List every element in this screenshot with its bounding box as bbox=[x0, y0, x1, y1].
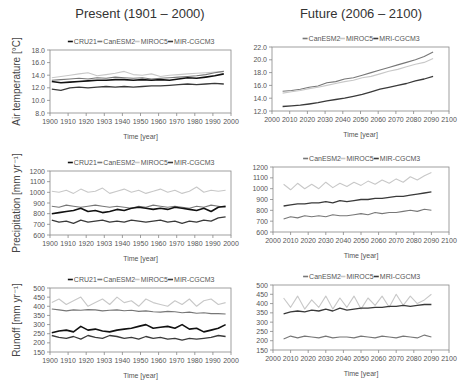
legend: CRU21CanESM2MIROC5MIR-CGCM3 bbox=[68, 38, 215, 45]
x-tick-label: 2070 bbox=[388, 355, 404, 362]
series-line-cru21 bbox=[52, 325, 226, 333]
y-tick-label: 600 bbox=[33, 232, 45, 239]
x-tick-label: 2020 bbox=[300, 116, 316, 123]
y-tick-label: 300 bbox=[33, 321, 45, 328]
legend-label: CanESM2 bbox=[309, 155, 341, 162]
x-tick-label: 1903 bbox=[97, 118, 113, 125]
series-line-canesm2 bbox=[284, 335, 432, 339]
x-tick-label: 2020 bbox=[300, 237, 316, 244]
y-tick-label: 350 bbox=[256, 309, 268, 316]
legend: CanESM2MIROC5MRI-CGCM3 bbox=[303, 273, 420, 280]
legend: CanESM2MIROC5MRI-CGCM3 bbox=[303, 35, 420, 42]
x-tick-label: 2010 bbox=[282, 116, 298, 123]
y-tick-label: 450 bbox=[256, 291, 268, 298]
y-tick-label: 900 bbox=[256, 196, 268, 203]
x-tick-label: 1950 bbox=[133, 240, 149, 247]
x-tick-label: 2090 bbox=[424, 237, 440, 244]
plot-frame bbox=[273, 285, 449, 350]
series-line-mri-cgcm3 bbox=[283, 76, 434, 106]
legend: CRU21CanESM2MIROC5MIR-CGCM3 bbox=[68, 159, 215, 166]
legend: CRU21CanESM2MIROC5MIR-CGCM3 bbox=[68, 276, 215, 283]
x-tick-label: 1920 bbox=[78, 240, 94, 247]
temp-future-chart: 12.014.016.018.020.022.02000201020202030… bbox=[253, 35, 457, 139]
x-tick-label: 2000 bbox=[264, 116, 280, 123]
x-tick-label: 2010 bbox=[283, 355, 299, 362]
x-tick-label: 2080 bbox=[406, 355, 422, 362]
x-tick-label: 2030 bbox=[318, 355, 334, 362]
x-tick-label: 2070 bbox=[388, 237, 404, 244]
y-tick-label: 1200 bbox=[29, 168, 45, 175]
y-tick-label: 150 bbox=[33, 349, 45, 356]
plot-frame bbox=[50, 288, 231, 352]
y-axis-label: Runoff [mm yr⁻¹] bbox=[11, 283, 22, 357]
legend-label: MIROC5 bbox=[346, 155, 373, 162]
y-tick-label: 500 bbox=[256, 282, 268, 289]
x-tick-label: 1950 bbox=[133, 118, 149, 125]
y-tick-label: 1100 bbox=[30, 178, 45, 185]
x-tick-label: 2090 bbox=[424, 116, 440, 123]
x-tick-label: 2100 bbox=[441, 116, 457, 123]
x-tick-label: 1910 bbox=[60, 357, 76, 364]
legend-label: CanESM2 bbox=[103, 159, 135, 166]
series-line-canesm2 bbox=[283, 52, 434, 91]
y-tick-label: 14.0 bbox=[253, 95, 267, 102]
x-tick-label: 1940 bbox=[115, 240, 131, 247]
x-tick-label: 2050 bbox=[353, 116, 369, 123]
x-tick-label: 1960 bbox=[151, 118, 167, 125]
y-tick-label: 150 bbox=[256, 347, 268, 354]
x-tick-label: 1900 bbox=[42, 118, 58, 125]
temp-present-chart: 8.010.012.014.016.018.019001910192019031… bbox=[11, 37, 239, 141]
x-tick-label: 2000 bbox=[265, 355, 281, 362]
x-tick-label: 2020 bbox=[300, 355, 316, 362]
precip-present-chart: 6007008009001000110012001900191019201903… bbox=[11, 153, 239, 263]
x-tick-label: 1970 bbox=[169, 357, 185, 364]
x-tick-label: 1980 bbox=[187, 357, 203, 364]
x-tick-label: 1903 bbox=[97, 240, 113, 247]
y-tick-label: 250 bbox=[33, 330, 45, 337]
legend-label: MRI-CGCM3 bbox=[380, 273, 421, 280]
series-line-mir-cgcm3 bbox=[52, 83, 224, 90]
x-tick-label: 1940 bbox=[115, 118, 131, 125]
x-tick-label: 1910 bbox=[60, 240, 76, 247]
y-tick-label: 200 bbox=[33, 339, 45, 346]
x-tick-label: 2100 bbox=[441, 355, 457, 362]
x-tick-label: 1900 bbox=[42, 240, 58, 247]
series-line-mri-cgcm3 bbox=[284, 192, 432, 206]
x-tick-label: 2090 bbox=[424, 355, 440, 362]
x-tick-label: 2060 bbox=[371, 355, 387, 362]
series-line-miroc5 bbox=[52, 297, 226, 306]
legend-label: MIR-CGCM3 bbox=[174, 276, 215, 283]
x-tick-label: 2000 bbox=[223, 240, 239, 247]
x-tick-label: 1960 bbox=[151, 240, 167, 247]
series-line-miroc5 bbox=[284, 172, 432, 189]
legend-label: MRI-CGCM3 bbox=[379, 35, 420, 42]
y-axis-label: Precipitation [mm yr⁻¹] bbox=[11, 153, 22, 253]
y-tick-label: 16.0 bbox=[253, 82, 267, 89]
y-tick-label: 12.0 bbox=[253, 108, 267, 115]
series-line-canesm2 bbox=[52, 309, 226, 314]
y-tick-label: 10.0 bbox=[31, 97, 45, 104]
y-tick-label: 450 bbox=[33, 294, 45, 301]
legend-label: CRU21 bbox=[74, 276, 97, 283]
plot-frame bbox=[50, 171, 231, 235]
legend-label: CRU21 bbox=[74, 159, 97, 166]
x-tick-label: 2080 bbox=[406, 237, 422, 244]
legend-label: MIROC5 bbox=[346, 273, 373, 280]
x-tick-label: 2000 bbox=[265, 237, 281, 244]
x-tick-label: 2080 bbox=[406, 116, 422, 123]
legend-label: MIR-CGCM3 bbox=[174, 38, 215, 45]
x-tick-label: 1990 bbox=[205, 118, 221, 125]
y-tick-label: 800 bbox=[33, 210, 45, 217]
precip-future-chart: 6007008009001000110012002000201020202030… bbox=[252, 155, 456, 260]
x-tick-label: 2070 bbox=[388, 116, 404, 123]
y-tick-label: 900 bbox=[33, 200, 45, 207]
y-tick-label: 8.0 bbox=[35, 110, 45, 117]
legend-label: MIR-CGCM3 bbox=[174, 159, 215, 166]
legend-label: CanESM2 bbox=[103, 276, 135, 283]
y-tick-label: 1000 bbox=[29, 189, 45, 196]
x-tick-label: 1980 bbox=[187, 118, 203, 125]
y-tick-label: 300 bbox=[256, 319, 268, 326]
x-axis-label: Time [year] bbox=[123, 372, 158, 380]
x-tick-label: 2000 bbox=[223, 357, 239, 364]
y-axis-label: Air temperature [°C] bbox=[11, 37, 22, 126]
